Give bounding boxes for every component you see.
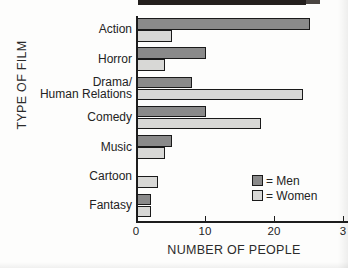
category-label-line: Cartoon	[22, 170, 132, 183]
bar-women-action	[137, 30, 172, 42]
scan-artifact-strip	[138, 0, 306, 5]
bar-men-action	[137, 18, 310, 30]
category-label-drama-human-relations: Drama/Human Relations	[22, 76, 132, 101]
bar-men-comedy	[137, 106, 206, 118]
category-label-music: Music	[22, 141, 132, 154]
legend-label-men: = Men	[266, 174, 300, 188]
page-edge-shadow	[338, 0, 348, 268]
x-axis-line	[136, 221, 348, 223]
legend-swatch-women	[252, 190, 263, 201]
x-axis-tick-label-10: 10	[199, 225, 212, 237]
legend-item-women: = Women	[252, 189, 317, 202]
chart-legend: = Men= Women	[252, 174, 338, 206]
category-label-line: Music	[22, 141, 132, 154]
scan-artifact-strip-tail	[306, 0, 320, 4]
category-label-cartoon: Cartoon	[22, 170, 132, 183]
bar-men-drama-human-relations	[137, 77, 192, 89]
y-axis-category-labels: ActionHorrorDrama/Human RelationsComedyM…	[22, 16, 132, 221]
category-label-comedy: Comedy	[22, 111, 132, 124]
bar-women-horror	[137, 59, 165, 71]
x-axis-tick-20	[274, 216, 275, 223]
x-axis-tick-label-0: 0	[133, 225, 139, 237]
legend-label-women: = Women	[266, 189, 317, 203]
category-label-horror: Horror	[22, 53, 132, 66]
category-label-action: Action	[22, 23, 132, 36]
x-axis-title: NUMBER OF PEOPLE	[136, 243, 332, 257]
bar-women-cartoon	[137, 176, 158, 188]
legend-item-men: = Men	[252, 174, 300, 187]
bar-men-horror	[137, 47, 206, 59]
bar-women-comedy	[137, 118, 261, 130]
bar-women-music	[137, 147, 165, 159]
legend-swatch-men	[252, 175, 263, 186]
category-label-line: Action	[22, 23, 132, 36]
bar-women-fantasy	[137, 206, 151, 218]
category-label-line: Comedy	[22, 111, 132, 124]
category-label-line: Human Relations	[22, 88, 132, 101]
category-label-fantasy: Fantasy	[22, 199, 132, 212]
category-label-line: Horror	[22, 53, 132, 66]
x-axis-tick-label-20: 20	[268, 225, 281, 237]
category-label-line: Fantasy	[22, 199, 132, 212]
bar-men-music	[137, 135, 172, 147]
bar-women-drama-human-relations	[137, 89, 303, 101]
bar-men-fantasy	[137, 194, 151, 206]
page-bottom-shadow	[0, 262, 348, 268]
x-axis-tick-10	[205, 216, 206, 223]
